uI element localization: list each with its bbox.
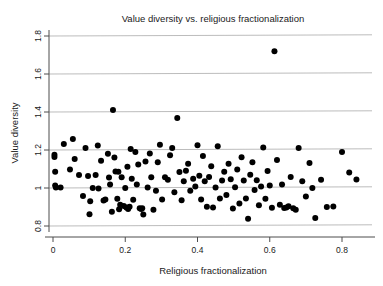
data-point (181, 178, 187, 184)
data-point (330, 204, 336, 210)
data-point (102, 196, 108, 202)
x-tick-label-2: 0.4 (192, 245, 204, 255)
x-tick-label-4: 0.8 (336, 245, 348, 255)
data-point (96, 185, 102, 191)
data-point (153, 188, 159, 194)
data-point (169, 145, 175, 151)
data-point (195, 142, 201, 148)
data-point (183, 168, 189, 174)
data-point (93, 172, 99, 178)
data-point (98, 158, 104, 164)
data-point (269, 205, 275, 211)
data-point (243, 195, 249, 201)
data-point (85, 173, 91, 179)
data-point (206, 174, 212, 180)
data-point (196, 173, 202, 179)
data-point (228, 176, 234, 182)
data-point (110, 107, 116, 113)
data-point (72, 156, 78, 162)
y-axis-label: Value diversity (9, 102, 20, 163)
data-point (132, 149, 138, 155)
data-point (135, 161, 141, 167)
data-point (271, 48, 277, 54)
y-tick-label-3: 1.4 (33, 106, 43, 118)
data-point (129, 176, 135, 182)
data-point (106, 175, 112, 181)
data-point (236, 201, 242, 207)
data-point (232, 184, 238, 190)
data-point (219, 177, 225, 183)
data-point (58, 185, 64, 191)
data-point (249, 159, 255, 165)
data-point (171, 189, 177, 195)
scatter-plot-figure: Value diversity vs. religious fractional… (0, 0, 383, 286)
chart-title: Value diversity vs. religious fractional… (122, 13, 305, 24)
data-point (198, 196, 204, 202)
data-point (90, 185, 96, 191)
y-tick-label-2: 1.2 (33, 144, 43, 156)
data-point (306, 160, 312, 166)
data-point (221, 169, 227, 175)
x-tick-label-3: 0.6 (264, 245, 276, 255)
data-point (217, 195, 223, 201)
data-point (339, 149, 345, 155)
data-point (309, 185, 315, 191)
data-point (258, 183, 264, 189)
data-point (167, 152, 173, 158)
data-point (176, 169, 182, 175)
data-point (67, 167, 73, 173)
data-point (147, 150, 153, 156)
data-point (213, 184, 219, 190)
y-tick-label-5: 1.8 (33, 30, 43, 42)
data-point (312, 215, 318, 221)
data-point (130, 197, 136, 203)
data-point (267, 183, 273, 189)
data-point (318, 177, 324, 183)
data-point (204, 204, 210, 210)
data-point (239, 154, 245, 160)
data-point (324, 204, 330, 210)
y-tick-label-4: 1.6 (33, 68, 43, 80)
data-point (115, 169, 121, 175)
data-point (109, 209, 115, 215)
data-point (260, 145, 266, 151)
data-point (139, 205, 145, 211)
data-point (111, 155, 117, 161)
y-tick-label-0: 0.8 (33, 220, 43, 232)
data-point (70, 136, 76, 142)
data-point (202, 178, 208, 184)
data-point (51, 154, 57, 160)
data-point (185, 161, 191, 167)
data-point (293, 207, 299, 213)
y-tick-label-1: 1 (33, 185, 43, 190)
data-point (159, 196, 165, 202)
data-point (256, 202, 262, 208)
data-point (107, 182, 113, 188)
data-point (145, 184, 151, 190)
data-point (288, 174, 294, 180)
data-point (105, 151, 111, 157)
chart-background (0, 0, 383, 286)
data-point (76, 172, 82, 178)
data-point (245, 216, 251, 222)
data-point (274, 157, 280, 163)
data-point (148, 174, 154, 180)
data-point (346, 169, 352, 175)
data-point (157, 142, 163, 148)
data-point (52, 169, 58, 175)
x-tick-label-0: 0 (51, 245, 56, 255)
data-point (134, 182, 140, 188)
x-axis-label: Religious fractionalization (159, 265, 267, 276)
data-point (230, 206, 236, 212)
data-point (254, 177, 260, 183)
data-point (87, 198, 93, 204)
data-point (234, 166, 240, 172)
data-point (86, 211, 92, 217)
data-point (187, 188, 193, 194)
data-point (95, 142, 101, 148)
data-point (353, 176, 359, 182)
data-point (124, 164, 130, 170)
data-point (150, 207, 156, 213)
data-point (192, 183, 198, 189)
data-point (226, 161, 232, 167)
